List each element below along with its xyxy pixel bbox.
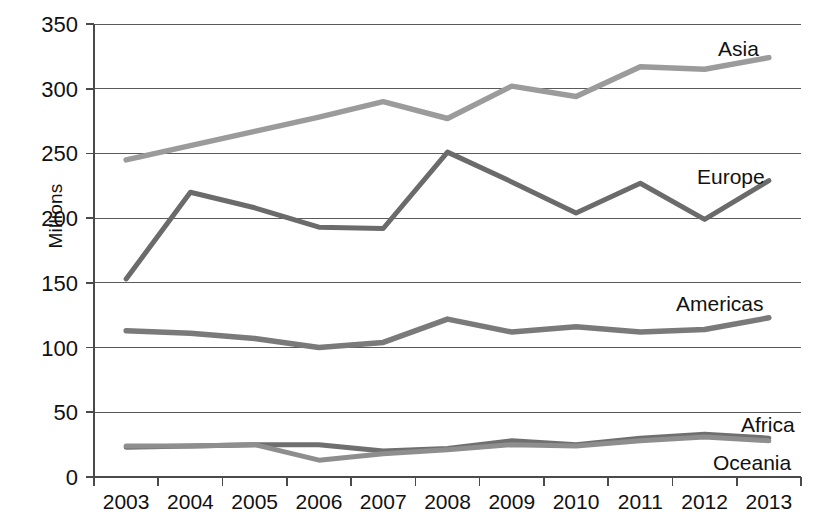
series-label-africa: Africa bbox=[741, 413, 795, 436]
x-tick-label: 2007 bbox=[360, 490, 407, 513]
x-tick-label: 2008 bbox=[424, 490, 471, 513]
x-tick-label: 2005 bbox=[231, 490, 278, 513]
x-tick-label: 2010 bbox=[553, 490, 600, 513]
y-tick-label: 150 bbox=[41, 271, 78, 296]
chart-canvas: 050100150200250300350 200320042005200620… bbox=[0, 0, 836, 530]
data-series bbox=[126, 58, 769, 461]
x-tick-label: 2011 bbox=[618, 490, 663, 513]
series-label-asia: Asia bbox=[718, 37, 759, 60]
x-tick-label: 2003 bbox=[103, 490, 150, 513]
x-axis-ticks: 2003200420052006200720082009201020112012… bbox=[94, 477, 801, 513]
series-line-asia bbox=[126, 58, 769, 160]
series-line-europe bbox=[126, 152, 769, 279]
series-line-oceania bbox=[126, 437, 769, 460]
y-tick-label: 50 bbox=[54, 400, 78, 425]
gridlines bbox=[94, 24, 801, 412]
series-label-oceania: Oceania bbox=[713, 451, 792, 474]
x-tick-label: 2012 bbox=[681, 490, 728, 513]
x-tick-label: 2009 bbox=[488, 490, 535, 513]
y-tick-label: 200 bbox=[41, 206, 78, 231]
y-tick-label: 0 bbox=[66, 465, 78, 490]
y-tick-label: 250 bbox=[41, 141, 78, 166]
series-label-europe: Europe bbox=[697, 165, 765, 188]
series-labels: AsiaEuropeAmericasAfricaOceania bbox=[676, 37, 795, 474]
y-axis-ticks: 050100150200250300350 bbox=[41, 12, 94, 490]
x-tick-label: 2013 bbox=[746, 490, 793, 513]
series-label-americas: Americas bbox=[676, 292, 764, 315]
y-tick-label: 100 bbox=[41, 336, 78, 361]
x-tick-label: 2006 bbox=[296, 490, 343, 513]
y-tick-label: 300 bbox=[41, 77, 78, 102]
line-chart: Millions 050100150200250300350 200320042… bbox=[0, 0, 836, 530]
series-line-americas bbox=[126, 318, 769, 348]
y-tick-label: 350 bbox=[41, 12, 78, 37]
x-tick-label: 2004 bbox=[167, 490, 214, 513]
